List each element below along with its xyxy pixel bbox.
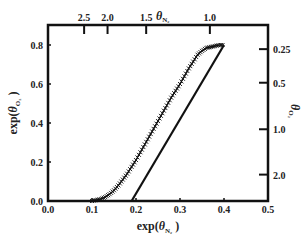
x-axis-label: exp(θN₂ ) — [137, 219, 179, 235]
top-axis-label: θN₂ — [156, 9, 169, 24]
right-tick-label: 1.0 — [273, 124, 286, 135]
plot-frame — [48, 25, 268, 201]
right-tick-label: 2.0 — [273, 170, 286, 181]
x-tick-label: 0.1 — [86, 204, 99, 215]
y-tick-label: 0.4 — [31, 118, 44, 129]
y-tick-label: 0.6 — [31, 79, 44, 90]
x-tick-label: 0.2 — [130, 204, 143, 215]
top-tick-label: 2.5 — [78, 12, 91, 23]
x-tick-label: 0.0 — [42, 204, 55, 215]
right-tick-label: 0.5 — [273, 78, 286, 89]
right-tick-label: 0.25 — [273, 44, 291, 55]
chart: 0.00.10.20.30.40.50.00.20.40.60.82.52.01… — [0, 0, 304, 239]
top-tick-label: 2.0 — [101, 12, 114, 23]
y-tick-label: 0.2 — [31, 157, 44, 168]
fit-line — [132, 45, 224, 201]
y-tick-label: 0.0 — [31, 196, 44, 207]
top-tick-label: 1.0 — [204, 12, 217, 23]
x-tick-label: 0.3 — [174, 204, 187, 215]
y-axis-label: exp(θO₂ ) — [6, 92, 22, 135]
x-tick-label: 0.4 — [218, 204, 231, 215]
y-tick-label: 0.8 — [31, 40, 44, 51]
right-axis-label: θO₂ — [287, 104, 302, 118]
marker-curve — [92, 45, 224, 201]
top-tick-label: 1.5 — [140, 12, 153, 23]
x-tick-label: 0.5 — [262, 204, 275, 215]
